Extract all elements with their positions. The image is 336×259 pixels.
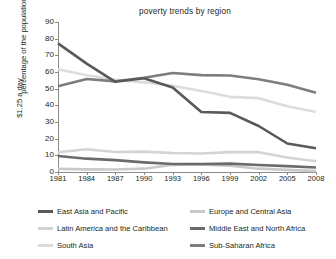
legend-label: East Asia and Pacific bbox=[57, 208, 128, 216]
plot-area bbox=[58, 22, 316, 172]
legend-label: Europe and Central Asia bbox=[209, 208, 291, 216]
poverty-trends-chart: poverty trends by region percentage of t… bbox=[0, 0, 336, 259]
y-tick-label: 50 bbox=[30, 85, 54, 93]
legend-item[interactable]: Sub-Saharan Africa bbox=[190, 237, 328, 254]
series-line-east-asia-and-pacific bbox=[58, 43, 316, 148]
legend-label: Latin America and the Caribbean bbox=[57, 225, 168, 233]
x-tick-label: 2002 bbox=[250, 175, 267, 183]
y-axis-title-line2-text: $1.25 a day bbox=[15, 78, 24, 118]
y-tick-label: 10 bbox=[30, 151, 54, 159]
legend-item[interactable]: Latin America and the Caribbean bbox=[38, 220, 190, 237]
x-tick-label: 1984 bbox=[78, 175, 95, 183]
legend-label: South Asia bbox=[57, 242, 93, 250]
x-tick-label: 1981 bbox=[50, 175, 67, 183]
legend-label: Middle East and North Africa bbox=[209, 225, 305, 233]
legend-line-swatch bbox=[190, 210, 205, 213]
y-tick-label: 60 bbox=[30, 68, 54, 76]
y-tick-label: 80 bbox=[30, 35, 54, 43]
x-tick-label: 1987 bbox=[107, 175, 124, 183]
x-tick-label: 1993 bbox=[164, 175, 181, 183]
y-tick-label: 20 bbox=[30, 135, 54, 143]
legend-item[interactable]: South Asia bbox=[38, 237, 190, 254]
legend-line-swatch bbox=[38, 210, 53, 213]
legend-item[interactable]: Middle East and North Africa bbox=[190, 220, 328, 237]
x-tick-label: 1996 bbox=[193, 175, 210, 183]
x-tick-label: 1999 bbox=[222, 175, 239, 183]
plot-svg bbox=[58, 22, 316, 172]
legend-line-swatch bbox=[38, 227, 53, 230]
legend-line-swatch bbox=[38, 244, 53, 247]
legend-label: Sub-Saharan Africa bbox=[209, 242, 275, 250]
legend-item[interactable]: East Asia and Pacific bbox=[38, 203, 190, 220]
x-tick-label: 1990 bbox=[136, 175, 153, 183]
y-tick-label: 40 bbox=[30, 101, 54, 109]
legend-line-swatch bbox=[190, 244, 205, 247]
series-line-south-asia bbox=[58, 69, 316, 112]
chart-legend: East Asia and PacificEurope and Central … bbox=[38, 203, 328, 255]
y-axis-title-line2: $1.25 a day bbox=[13, 33, 25, 163]
y-tick-label: 30 bbox=[30, 118, 54, 126]
x-tick-label: 2008 bbox=[308, 175, 325, 183]
y-tick-label: 70 bbox=[30, 51, 54, 59]
legend-item[interactable]: Europe and Central Asia bbox=[190, 203, 328, 220]
x-axis-tick-labels: 1981198419871990199319961999200220052008 bbox=[58, 175, 316, 189]
y-axis-tick-labels: 0102030405060708090 bbox=[28, 22, 54, 172]
chart-title: poverty trends by region bbox=[0, 7, 336, 16]
y-tick-label: 90 bbox=[30, 18, 54, 26]
legend-line-swatch bbox=[190, 227, 205, 230]
x-tick-label: 2005 bbox=[279, 175, 296, 183]
